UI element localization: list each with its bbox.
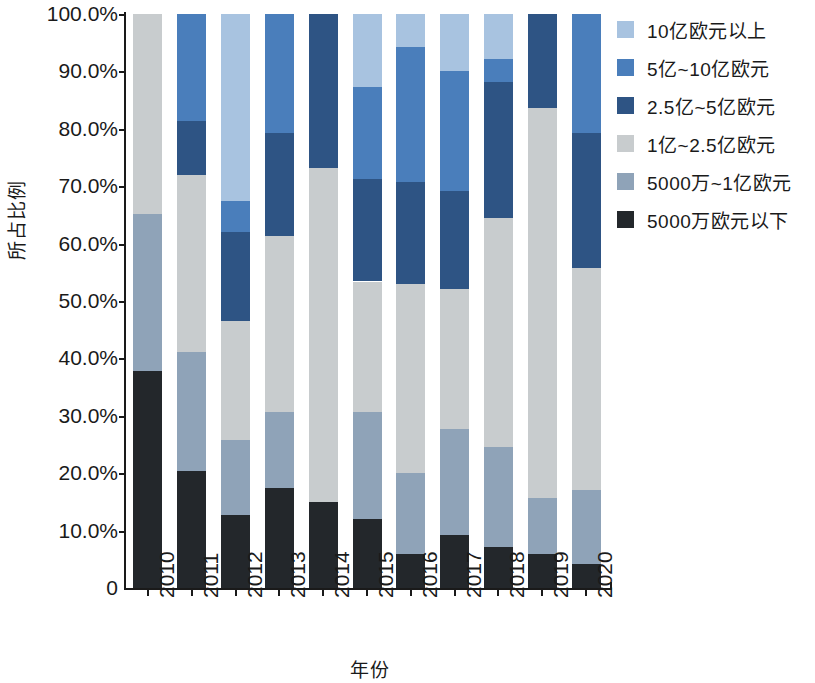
bar-segment <box>353 87 382 179</box>
y-axis-tick-mark <box>119 129 126 131</box>
bar-segment <box>484 14 513 59</box>
bar-segment <box>265 412 294 488</box>
y-axis-tick-label: 80.0% <box>12 118 118 139</box>
y-axis-tick-mark <box>119 244 126 246</box>
legend-item: 5000万~1亿欧元 <box>617 162 815 200</box>
bar-segment <box>440 71 469 192</box>
x-axis-tick-label: 2013 <box>287 551 308 598</box>
bar-2015 <box>353 14 382 588</box>
bar-segment <box>440 289 469 429</box>
x-axis-tick-label: 2012 <box>244 551 265 598</box>
legend-color-swatch-icon <box>617 211 634 228</box>
bar-segment <box>396 284 425 473</box>
bar-segment <box>221 201 250 232</box>
y-axis-tick-label: 0 <box>12 577 118 598</box>
y-axis-top-cap <box>119 14 126 16</box>
legend-item: 2.5亿~5亿欧元 <box>617 86 815 124</box>
bar-segment <box>309 14 338 168</box>
legend-item: 5亿~10亿欧元 <box>617 48 815 86</box>
bar-2016 <box>396 14 425 588</box>
bar-segment <box>265 14 294 133</box>
bar-segment <box>221 321 250 440</box>
y-axis-tick-mark <box>119 416 126 418</box>
bar-segment <box>177 175 206 352</box>
x-axis-tick-mark <box>191 588 193 596</box>
y-axis-tick-label: 40.0% <box>12 347 118 368</box>
bar-segment <box>572 14 601 133</box>
bar-segment <box>353 14 382 87</box>
legend-item-label: 2.5亿~5亿欧元 <box>647 92 776 119</box>
x-axis-tick-mark <box>410 588 412 596</box>
y-axis-tick-mark <box>119 301 126 303</box>
bar-2011 <box>177 14 206 588</box>
x-axis-tick-label: 2015 <box>375 551 396 598</box>
bar-segment <box>265 236 294 413</box>
y-axis-tick-label: 50.0% <box>12 290 118 311</box>
x-axis-tick-mark <box>497 588 499 596</box>
legend-color-swatch-icon <box>617 59 634 76</box>
bar-segment <box>177 352 206 471</box>
legend-item-label: 5000万~1亿欧元 <box>647 168 792 195</box>
bar-2010 <box>133 14 162 588</box>
y-axis-tick-mark <box>119 473 126 475</box>
bar-segment <box>528 108 557 499</box>
bar-segment <box>484 82 513 218</box>
x-axis-tick-mark <box>147 588 149 596</box>
bar-segment <box>221 14 250 201</box>
bar-segment <box>353 412 382 518</box>
bar-segment <box>440 14 469 71</box>
bar-segment <box>221 440 250 515</box>
x-axis-tick-label: 2014 <box>331 551 352 598</box>
x-axis-tick-mark <box>322 588 324 596</box>
x-axis-line <box>124 588 612 590</box>
bar-segment <box>528 14 557 108</box>
bar-segment <box>396 473 425 553</box>
bar-segment <box>353 282 382 413</box>
legend-item-label: 1亿~2.5亿欧元 <box>647 130 776 157</box>
bar-2018 <box>484 14 513 588</box>
bar-segment <box>177 14 206 121</box>
bar-segment <box>177 121 206 176</box>
legend-item-label: 10亿欧元以上 <box>647 16 767 43</box>
x-axis-tick-mark <box>278 588 280 596</box>
plot-area <box>126 14 608 588</box>
legend-color-swatch-icon <box>617 21 634 38</box>
bar-2020 <box>572 14 601 588</box>
legend-color-swatch-icon <box>617 173 634 190</box>
x-axis-tick-label: 2016 <box>419 551 440 598</box>
legend-item: 1亿~2.5亿欧元 <box>617 124 815 162</box>
y-axis-tick-labels: 010.0%20.0%30.0%40.0%50.0%60.0%70.0%80.0… <box>0 0 118 683</box>
bar-segment <box>484 59 513 83</box>
x-axis-tick-mark <box>366 588 368 596</box>
x-axis-tick-label: 2011 <box>200 553 221 598</box>
x-axis-tick-mark <box>541 588 543 596</box>
legend-color-swatch-icon <box>617 97 634 114</box>
bar-segment <box>440 191 469 289</box>
x-axis-tick-label: 2019 <box>550 551 571 598</box>
legend-item: 10亿欧元以上 <box>617 10 815 48</box>
y-axis-tick-label: 100.0% <box>12 3 118 24</box>
bar-segment <box>572 268 601 490</box>
bar-segment <box>528 498 557 553</box>
y-axis-tick-label: 10.0% <box>12 520 118 541</box>
y-axis-tick-mark <box>119 71 126 73</box>
legend: 10亿欧元以上5亿~10亿欧元2.5亿~5亿欧元1亿~2.5亿欧元5000万~1… <box>617 10 815 238</box>
bar-segment <box>484 447 513 547</box>
legend-item: 5000万欧元以下 <box>617 200 815 238</box>
bar-segment <box>309 168 338 503</box>
x-axis-tick-label: 2010 <box>156 551 177 598</box>
bar-segment <box>353 179 382 281</box>
x-axis-tick-mark <box>454 588 456 596</box>
y-axis-tick-mark <box>119 186 126 188</box>
bar-segment <box>396 47 425 182</box>
x-axis-tick-mark <box>585 588 587 596</box>
y-axis-tick-mark <box>119 531 126 533</box>
legend-color-swatch-icon <box>617 135 634 152</box>
legend-item-label: 5亿~10亿欧元 <box>647 54 770 81</box>
bar-2019 <box>528 14 557 588</box>
y-axis-tick-label: 60.0% <box>12 233 118 254</box>
bar-segment <box>133 214 162 371</box>
y-axis-tick-mark <box>119 358 126 360</box>
bar-segment <box>440 429 469 535</box>
x-axis-tick-label: 2020 <box>594 551 615 598</box>
